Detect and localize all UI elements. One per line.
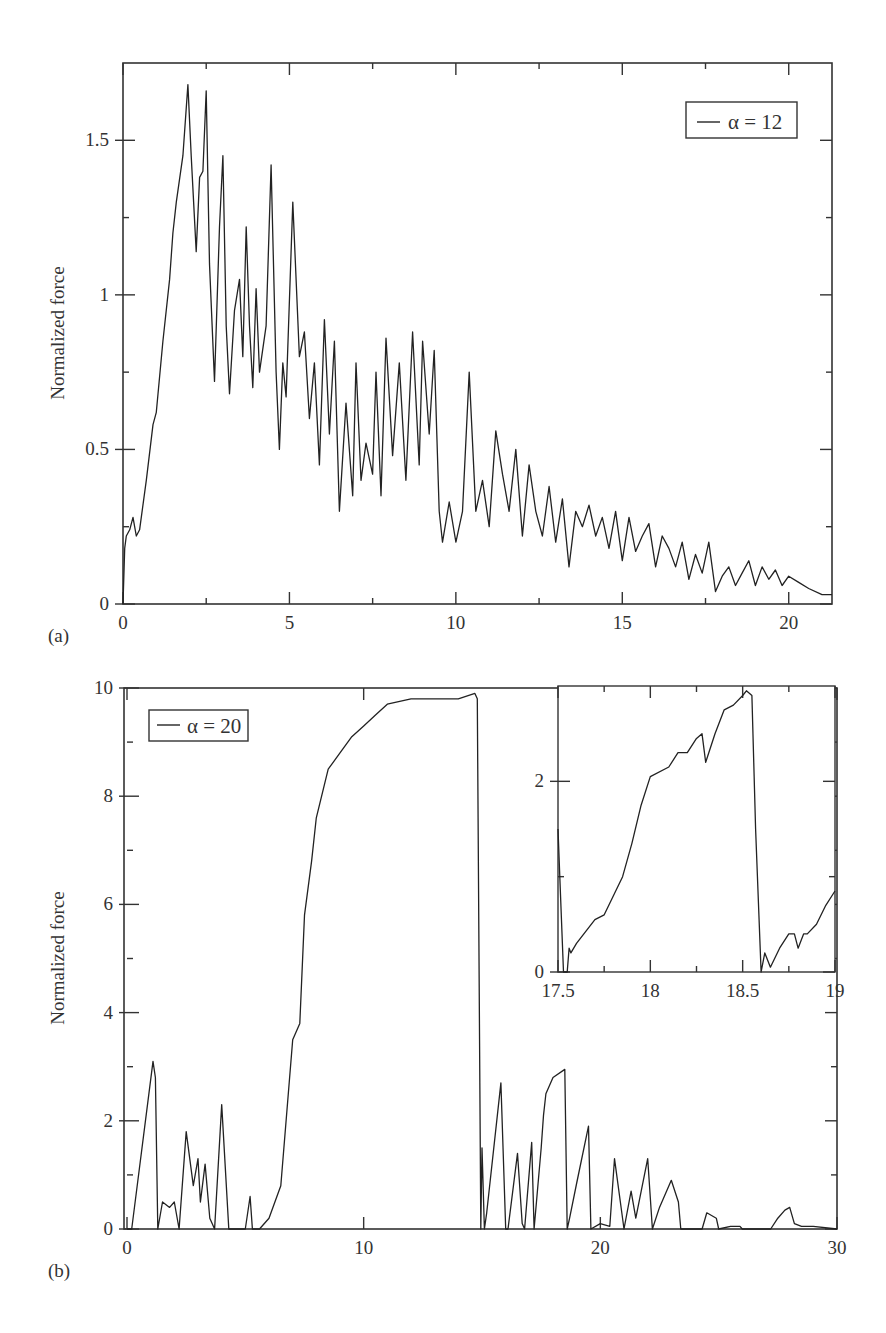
chart-a-ylabel: Normalized force	[47, 266, 68, 399]
chart-b-ylabel: Normalized force	[47, 891, 68, 1024]
x-tick-label: 30	[828, 1237, 847, 1258]
x-tick-label: 10	[446, 612, 465, 633]
y-tick-label: 0	[100, 593, 110, 614]
chart-b-inset-frame	[558, 686, 835, 972]
x-tick-label: 18.5	[726, 980, 759, 1001]
x-tick-label: 19	[826, 980, 845, 1001]
chart-a-legend: α = 12	[686, 102, 797, 138]
chart-b-inset: 17.51818.51902	[535, 686, 845, 1001]
y-tick-label: 8	[104, 785, 114, 806]
chart-a-legend-label: α = 12	[728, 110, 782, 134]
x-tick-label: 5	[285, 612, 295, 633]
y-tick-label: 0	[535, 961, 545, 982]
chart-a-panel-label: (a)	[48, 625, 69, 647]
chart-b: 01020300246810 α = 20 Normalized force (…	[47, 677, 847, 1282]
y-tick-label: 4	[104, 1002, 114, 1023]
x-tick-label: 20	[779, 612, 798, 633]
x-tick-label: 0	[118, 612, 128, 633]
x-tick-label: 0	[122, 1237, 132, 1258]
y-tick-label: 0.5	[85, 438, 109, 459]
y-tick-label: 1.5	[85, 129, 109, 150]
chart-b-panel-label: (b)	[48, 1260, 70, 1282]
y-tick-label: 6	[104, 893, 114, 914]
chart-a-ticks: 0510152000.511.5	[85, 63, 832, 633]
y-tick-label: 2	[104, 1110, 114, 1131]
chart-a: 0510152000.511.5 α = 12 Normalized force…	[47, 63, 832, 647]
chart-a-frame	[123, 63, 832, 604]
x-tick-label: 20	[591, 1237, 610, 1258]
y-tick-label: 2	[535, 770, 545, 791]
y-tick-label: 0	[104, 1218, 114, 1239]
x-tick-label: 17.5	[541, 980, 574, 1001]
chart-b-legend: α = 20	[149, 710, 248, 741]
chart-b-legend-label: α = 20	[187, 714, 241, 738]
figure: 0510152000.511.5 α = 12 Normalized force…	[0, 0, 886, 1333]
y-tick-label: 1	[100, 284, 110, 305]
y-tick-label: 10	[94, 677, 113, 698]
x-tick-label: 18	[641, 980, 660, 1001]
x-tick-label: 10	[354, 1237, 373, 1258]
x-tick-label: 15	[613, 612, 632, 633]
chart-a-series-line	[123, 85, 832, 604]
